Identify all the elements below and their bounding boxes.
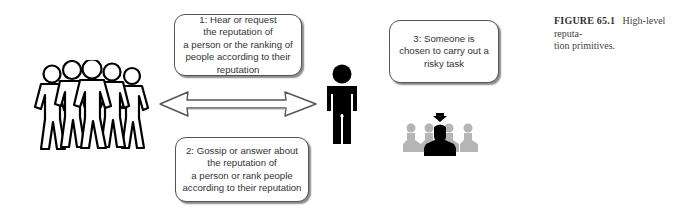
step-3-text: 3: Someone is chosen to carry out a risk… — [399, 33, 489, 70]
double-arrow-icon — [158, 89, 318, 119]
step-2-box: 2: Gossip or answer about the reputation… — [175, 137, 309, 202]
person-icon — [325, 64, 359, 146]
step-1-text: 1: Hear or request the reputation of a p… — [183, 14, 292, 76]
figure-caption: FIGURE 65.1 High-level reputa- tion prim… — [554, 15, 684, 53]
crowd-icon — [28, 60, 152, 152]
caption-line-2: tion primitives. — [554, 40, 615, 51]
step-2-text: 2: Gossip or answer about the reputation… — [183, 145, 302, 195]
step-3-box: 3: Someone is chosen to carry out a risk… — [389, 20, 499, 83]
step-1-box: 1: Hear or request the reputation of a p… — [174, 14, 302, 76]
chosen-person-icon — [403, 112, 479, 170]
figure-label: FIGURE 65.1 — [554, 15, 615, 26]
